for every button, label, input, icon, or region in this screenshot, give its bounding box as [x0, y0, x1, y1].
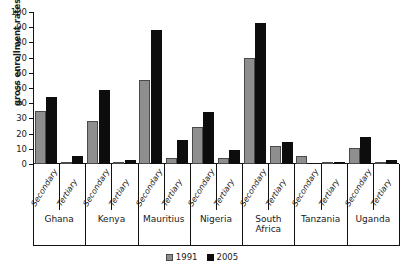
bar-2005-mauritius-tertiary — [177, 140, 188, 164]
legend-swatch-icon — [207, 254, 214, 261]
y-axis-tick-label: 90 — [16, 23, 27, 31]
legend-item-2005: 2005 — [207, 252, 239, 262]
y-axis-tick-label: 70 — [16, 54, 27, 62]
group-label-ghana: Ghana — [33, 214, 85, 224]
y-axis-tick-label: 10 — [16, 145, 27, 153]
legend-item-1991: 1991 — [166, 252, 198, 262]
y-axis-tick-label: 80 — [16, 38, 27, 46]
y-axis-tick — [29, 103, 33, 104]
y-axis-tick-label: 100 — [11, 8, 27, 16]
group-label-uganda: Uganda — [347, 214, 399, 224]
bar-1991-nigeria-secondary — [192, 127, 203, 164]
bar-2005-kenya-secondary — [99, 90, 110, 164]
bar-2005-south-africa-tertiary — [282, 142, 293, 164]
legend-label: 2005 — [217, 252, 239, 262]
bar-1991-south-africa-tertiary — [270, 146, 281, 164]
y-axis-tick-label: 50 — [16, 84, 27, 92]
group-separator — [399, 210, 400, 246]
y-axis-tick-label: 20 — [16, 130, 27, 138]
bar-chart: gross enrollment rates (%) 1009080706050… — [0, 0, 404, 274]
y-axis-tick — [29, 58, 33, 59]
bar-2005-ghana-tertiary — [72, 156, 83, 164]
plot-area: 1009080706050403020100 — [33, 12, 399, 164]
bar-2005-nigeria-tertiary — [229, 150, 240, 164]
subcategory-axis: SecondaryTertiarySecondaryTertiarySecond… — [33, 164, 399, 210]
group-axis-bottom-line — [33, 245, 399, 246]
bar-1991-mauritius-secondary — [139, 80, 150, 164]
y-axis-tick — [29, 12, 33, 13]
y-axis-tick-label: 60 — [16, 69, 27, 77]
group-label-south-africa: South Africa — [242, 214, 294, 234]
bar-2005-south-africa-secondary — [255, 23, 266, 164]
legend-swatch-icon — [166, 254, 173, 261]
subcategory-separator — [399, 164, 400, 210]
y-axis-tick — [29, 27, 33, 28]
group-label-tanzania: Tanzania — [294, 214, 346, 224]
bar-2005-nigeria-secondary — [203, 112, 214, 164]
bar-1991-tanzania-secondary — [296, 156, 307, 164]
chart-legend: 19912005 — [0, 252, 404, 262]
group-label-mauritius: Mauritius — [138, 214, 190, 224]
y-axis-tick — [29, 88, 33, 89]
group-axis: GhanaKenyaMauritiusNigeriaSouth AfricaTa… — [33, 210, 399, 246]
legend-label: 1991 — [176, 252, 198, 262]
group-label-kenya: Kenya — [85, 214, 137, 224]
y-axis-tick — [29, 42, 33, 43]
y-axis-tick — [29, 118, 33, 119]
bar-2005-ghana-secondary — [46, 97, 57, 164]
bar-1991-kenya-secondary — [87, 121, 98, 164]
bar-2005-mauritius-secondary — [151, 30, 162, 164]
y-axis-tick-label: 30 — [16, 114, 27, 122]
bar-1991-ghana-secondary — [35, 111, 46, 164]
group-label-nigeria: Nigeria — [190, 214, 242, 224]
y-axis-tick-label: 40 — [16, 99, 27, 107]
y-axis-tick — [29, 73, 33, 74]
bar-2005-uganda-secondary — [360, 137, 371, 164]
y-axis-tick — [29, 149, 33, 150]
y-axis-tick-label: 0 — [22, 160, 27, 168]
y-axis-tick — [29, 134, 33, 135]
bar-1991-south-africa-secondary — [244, 58, 255, 164]
bar-1991-uganda-secondary — [349, 148, 360, 164]
